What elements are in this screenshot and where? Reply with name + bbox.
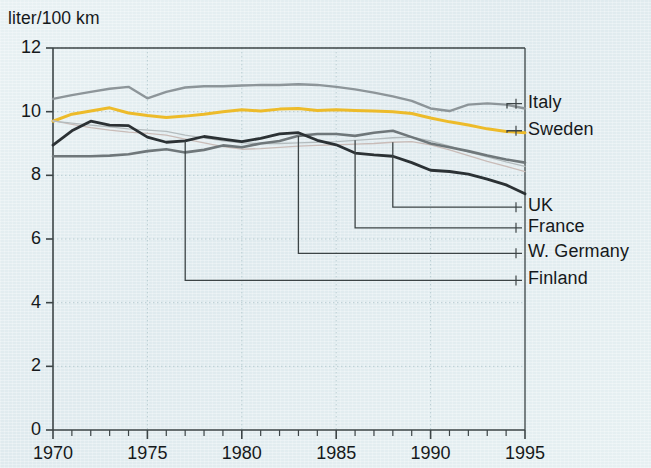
- axes: [46, 48, 525, 439]
- legend-label-france[interactable]: France: [528, 216, 585, 237]
- series-line-italy: [53, 84, 525, 111]
- y-tick-label: 2: [0, 355, 41, 376]
- x-tick-label: 1985: [306, 443, 366, 464]
- y-axis-title: liter/100 km: [8, 8, 100, 29]
- x-tick-label: 1970: [23, 443, 83, 464]
- leader-line-finland: [185, 141, 522, 280]
- legend-label-italy[interactable]: Italy: [528, 92, 562, 113]
- legend-label-uk[interactable]: UK: [528, 195, 553, 216]
- leader-line-w-germany: [298, 136, 522, 253]
- y-tick-label: 4: [0, 292, 41, 313]
- data-series: [53, 84, 525, 194]
- legend-label-finland[interactable]: Finland: [528, 268, 588, 289]
- y-tick-label: 12: [0, 37, 41, 58]
- y-tick-label: 8: [0, 164, 41, 185]
- y-tick-label: 0: [0, 419, 41, 440]
- x-tick-label: 1975: [117, 443, 177, 464]
- x-tick-label: 1990: [401, 443, 461, 464]
- y-tick-label: 6: [0, 228, 41, 249]
- y-tick-label: 10: [0, 101, 41, 122]
- legend-label-w-germany[interactable]: W. Germany: [528, 241, 629, 262]
- gridlines: [53, 48, 525, 430]
- leader-line-france: [355, 140, 522, 228]
- fuel-consumption-chart: liter/100 km 024681012 19701975198019851…: [0, 0, 651, 468]
- legend-label-sweden[interactable]: Sweden: [528, 119, 594, 140]
- x-tick-label: 1995: [495, 443, 555, 464]
- x-tick-label: 1980: [212, 443, 272, 464]
- series-line-france: [53, 121, 525, 166]
